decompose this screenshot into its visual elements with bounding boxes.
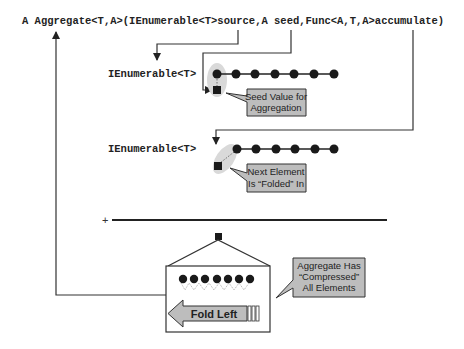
seed-callout: Seed Value for Aggregation: [226, 89, 307, 116]
result-square: [215, 233, 222, 240]
svg-text:Seed Value for: Seed Value for: [245, 91, 307, 102]
svg-text:Aggregation: Aggregation: [250, 102, 301, 113]
fold-left-label: Fold Left: [191, 308, 238, 320]
svg-text:Next Element: Next Element: [247, 166, 304, 177]
svg-text:All Elements: All Elements: [303, 282, 356, 293]
accumulated-square: [214, 162, 222, 170]
sequence-label-1: IEnumerable<T>: [108, 68, 196, 80]
result-box: Fold Left: [166, 233, 270, 332]
svg-text:Aggregate Has: Aggregate Has: [297, 260, 361, 271]
accumulate-connector: [216, 30, 413, 144]
svg-text:“Compressed”: “Compressed”: [299, 271, 359, 282]
result-callout: Aggregate Has “Compressed” All Elements: [276, 258, 365, 298]
svg-text:Is “Folded” In: Is “Folded” In: [248, 178, 304, 189]
source-connector: [157, 30, 238, 60]
sequence-label-2: IEnumerable<T>: [108, 143, 196, 155]
fold-callout: Next Element Is “Folded” In: [230, 164, 306, 192]
plus-sign: +: [102, 214, 108, 226]
method-signature: A Aggregate<T,A>(IEnumerable<T>source,A …: [22, 15, 444, 27]
seed-square: [213, 86, 221, 94]
aggregate-diagram: A Aggregate<T,A>(IEnumerable<T>source,A …: [0, 0, 464, 349]
